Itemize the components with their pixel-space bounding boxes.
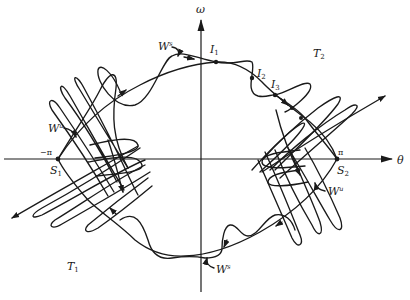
axes — [4, 20, 392, 292]
intersection-point-i3 — [273, 93, 277, 97]
intersection-point-i1 — [214, 60, 218, 64]
unstable-manifold-upper — [58, 62, 337, 159]
label-wu-left: Wu — [48, 122, 64, 135]
phase-portrait-diagram: ω θ −π π S1 S2 I1 I2 I3 T2 T1 Ws Wu Wu W… — [0, 0, 410, 300]
label-s2: S2 — [337, 164, 349, 178]
label-t1: T1 — [67, 260, 79, 274]
theta-axis-label: θ — [397, 154, 404, 167]
intersection-point-i2 — [250, 76, 254, 80]
label-t2: T2 — [313, 47, 325, 61]
intersection-point-a — [290, 106, 294, 110]
label-i3: I3 — [270, 78, 280, 92]
tick-pi: π — [338, 148, 343, 157]
label-ws-bottom: Ws — [216, 263, 231, 276]
manifold-curves — [12, 54, 385, 259]
arrow-ws-bottom — [224, 240, 227, 247]
label-wu-right: Wu — [328, 185, 344, 198]
label-ws-top: Ws — [158, 40, 173, 53]
pointer-ws-bottom — [207, 258, 214, 268]
arrow-ws-top — [184, 57, 194, 59]
right-escape-branch — [262, 96, 385, 172]
label-i1: I1 — [209, 43, 219, 57]
stable-manifold-lower — [120, 215, 295, 259]
left-tangle-down-lobe-1 — [33, 148, 145, 217]
omega-axis-label: ω — [196, 3, 205, 16]
arrow-lower-right — [276, 222, 282, 226]
tick-minus-pi: −π — [40, 148, 52, 157]
stable-manifold-upper — [98, 54, 311, 112]
saddle-point-s1 — [56, 157, 61, 162]
left-tangle-lobe-4 — [50, 101, 114, 196]
saddle-point-s2 — [335, 157, 340, 162]
left-tangle-lobe-2 — [75, 78, 138, 195]
intersection-point-b — [299, 116, 303, 120]
label-s1: S1 — [50, 164, 62, 178]
arrow-lower-left — [110, 208, 116, 214]
label-i2: I2 — [256, 67, 266, 81]
